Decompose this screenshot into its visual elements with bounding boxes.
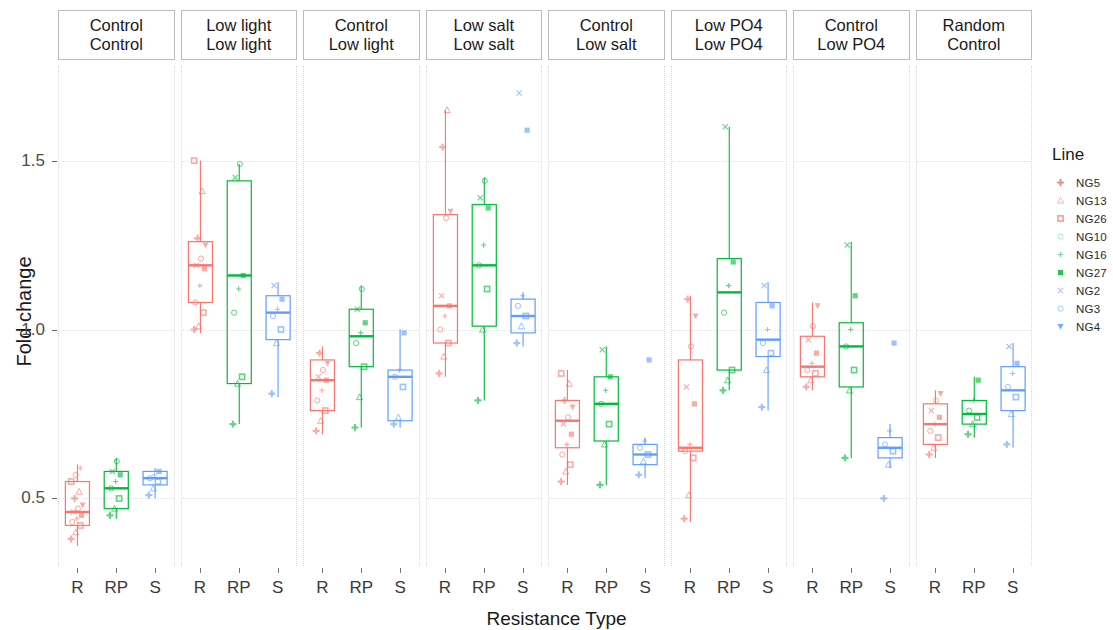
data-point — [443, 215, 448, 220]
data-point — [475, 398, 480, 403]
legend-item-ng10[interactable]: NG10 — [1052, 228, 1107, 245]
legend-item-ng27[interactable]: NG27 — [1052, 264, 1107, 281]
data-point — [559, 479, 564, 484]
legend-marker-icon — [1052, 319, 1069, 334]
data-point — [1058, 288, 1063, 293]
x-tick-label-RP: RP — [104, 578, 128, 598]
data-point — [690, 455, 695, 460]
panel-plot-area — [671, 0, 788, 628]
data-point — [156, 469, 161, 474]
data-point — [640, 458, 646, 464]
boxplot-RP — [349, 286, 373, 428]
boxplot-RP — [839, 242, 863, 458]
legend-marker-icon — [1052, 229, 1069, 244]
data-point — [975, 378, 980, 383]
data-point — [1014, 361, 1019, 366]
data-point — [397, 367, 402, 372]
data-point — [114, 459, 119, 464]
data-point — [933, 398, 938, 403]
data-point — [926, 452, 931, 457]
data-point — [1058, 234, 1063, 239]
data-point — [606, 422, 611, 427]
data-point — [518, 323, 524, 329]
data-point — [202, 242, 208, 248]
data-point — [352, 425, 357, 430]
data-point — [514, 340, 519, 345]
data-point — [230, 422, 235, 427]
x-tick-label-R: R — [684, 578, 696, 598]
panel-plot-area — [58, 0, 175, 628]
data-point — [438, 293, 443, 298]
data-point — [561, 422, 566, 427]
x-tick-label-R: R — [194, 578, 206, 598]
data-point — [107, 513, 112, 518]
legend-item-ng4[interactable]: NG4 — [1052, 318, 1107, 335]
data-point — [271, 283, 276, 288]
data-point — [935, 435, 940, 440]
panel-plot-area — [181, 0, 298, 628]
y-tick-mark — [52, 498, 57, 499]
data-point — [279, 297, 284, 302]
data-point — [851, 367, 856, 372]
data-point — [764, 327, 769, 332]
x-tick-mark — [77, 568, 78, 573]
legend-item-ng3[interactable]: NG3 — [1052, 300, 1107, 317]
data-point — [359, 286, 364, 291]
data-point — [971, 398, 976, 403]
data-point — [1004, 442, 1009, 447]
data-point — [1058, 216, 1063, 221]
data-point — [236, 286, 241, 291]
legend-label: NG27 — [1076, 267, 1107, 279]
data-point — [358, 330, 363, 335]
x-tick-label-RP: RP — [472, 578, 496, 598]
legend-marker-icon — [1052, 283, 1069, 298]
legend-marker-icon — [1052, 247, 1069, 262]
data-point — [966, 408, 971, 413]
x-tick-mark — [361, 568, 362, 573]
x-tick-label-S: S — [1007, 578, 1018, 598]
data-point — [890, 449, 895, 454]
x-tick-label-R: R — [806, 578, 818, 598]
data-point — [437, 327, 442, 332]
x-axis-title: Resistance Type — [0, 608, 1113, 630]
data-point — [842, 455, 847, 460]
legend-label: NG26 — [1076, 213, 1107, 225]
data-point — [316, 374, 321, 379]
legend-item-ng16[interactable]: NG16 — [1052, 246, 1107, 263]
x-tick-mark — [200, 568, 201, 573]
data-point — [113, 479, 118, 484]
data-point — [269, 391, 274, 396]
x-tick-label-RP: RP — [227, 578, 251, 598]
data-point — [845, 242, 850, 247]
legend-item-ng5[interactable]: NG5 — [1052, 174, 1107, 191]
data-point — [603, 388, 608, 393]
legend-marker-icon — [1052, 211, 1069, 226]
data-point — [70, 519, 75, 524]
legend-item-ng26[interactable]: NG26 — [1052, 210, 1107, 227]
legend-marker-icon — [1052, 175, 1069, 190]
x-tick-mark — [812, 568, 813, 573]
data-point — [760, 340, 765, 345]
legend-marker-icon — [1052, 265, 1069, 280]
x-tick-mark — [851, 568, 852, 573]
x-tick-label-R: R — [929, 578, 941, 598]
data-point — [444, 107, 450, 113]
data-point — [809, 361, 814, 366]
data-point — [516, 90, 521, 95]
data-point — [688, 344, 693, 349]
legend-item-ng13[interactable]: NG13 — [1052, 192, 1107, 209]
data-point — [636, 472, 641, 477]
data-point — [201, 266, 206, 271]
boxplot-R — [433, 110, 457, 377]
boxplot-RP — [227, 164, 251, 424]
data-point — [805, 367, 810, 372]
data-point — [965, 432, 970, 437]
data-point — [274, 307, 279, 312]
data-point — [937, 391, 943, 397]
legend-item-ng2[interactable]: NG2 — [1052, 282, 1107, 299]
x-tick-label-RP: RP — [962, 578, 986, 598]
data-point — [720, 388, 725, 393]
data-point — [1058, 270, 1063, 275]
data-point — [562, 398, 567, 403]
data-point — [564, 442, 569, 447]
